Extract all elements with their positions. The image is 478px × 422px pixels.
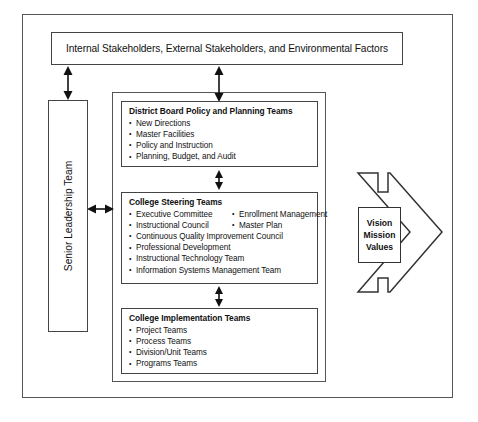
college-steering-list-col-a: Executive Committee Instructional Counci… (129, 209, 232, 231)
college-steering-title: College Steering Teams (129, 197, 317, 207)
college-steering-two-column-row: Executive Committee Instructional Counci… (129, 209, 317, 231)
stakeholders-banner: Internal Stakeholders, External Stakehol… (51, 32, 403, 65)
list-item: Master Facilities (129, 129, 317, 140)
college-steering-list-col-b: Enrollment Management Master Plan (232, 209, 327, 231)
college-implementation-box: College Implementation Teams Project Tea… (121, 308, 318, 374)
senior-leadership-team-label: Senior Leadership Team (63, 161, 74, 271)
list-item: New Directions (129, 118, 317, 129)
vision-mission-values-box: Vision Mission Values (358, 207, 401, 263)
mission-label: Mission (364, 229, 396, 241)
list-item: Policy and Instruction (129, 140, 317, 151)
list-item: Process Teams (129, 336, 317, 347)
values-label: Values (366, 241, 393, 253)
list-item: Enrollment Management (232, 209, 327, 220)
district-board-box: District Board Policy and Planning Teams… (121, 101, 318, 167)
list-item: Programs Teams (129, 358, 317, 369)
list-item: Planning, Budget, and Audit (129, 151, 317, 162)
list-item: Master Plan (232, 220, 327, 231)
senior-leadership-team-box: Senior Leadership Team (48, 100, 88, 332)
list-item: Instructional Technology Team (129, 253, 317, 264)
list-item: Project Teams (129, 325, 317, 336)
college-steering-box: College Steering Teams Executive Committ… (121, 192, 318, 284)
list-item: Continuous Quality Improvement Council (129, 231, 317, 242)
list-item: Information Systems Management Team (129, 265, 317, 276)
college-steering-list-full: Continuous Quality Improvement Council P… (129, 231, 317, 276)
vision-label: Vision (367, 217, 393, 229)
list-item: Professional Development (129, 242, 317, 253)
stakeholders-banner-label: Internal Stakeholders, External Stakehol… (66, 43, 388, 54)
governance-diagram: Internal Stakeholders, External Stakehol… (0, 0, 478, 422)
college-implementation-list: Project Teams Process Teams Division/Uni… (129, 325, 317, 370)
college-implementation-title: College Implementation Teams (129, 313, 317, 323)
list-item: Executive Committee (129, 209, 232, 220)
list-item: Division/Unit Teams (129, 347, 317, 358)
district-board-title: District Board Policy and Planning Teams (129, 106, 317, 116)
list-item: Instructional Council (129, 220, 232, 231)
district-board-list: New Directions Master Facilities Policy … (129, 118, 317, 163)
